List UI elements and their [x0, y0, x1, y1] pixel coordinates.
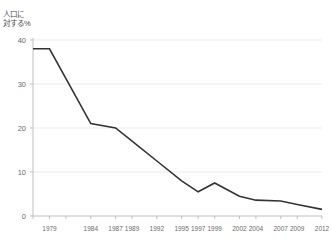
y-tick-label: 40: [10, 36, 26, 45]
y-tick-label: 0: [10, 212, 26, 221]
chart-container: 人口に 対する% 403020100 197919841987198919921…: [0, 0, 332, 243]
line-chart-svg: [0, 0, 332, 243]
y-tick-label: 20: [10, 124, 26, 133]
plot-area: [0, 0, 332, 243]
data-series-line: [33, 49, 322, 210]
x-tick-label: 1979: [39, 225, 61, 232]
y-tick-label: 10: [10, 168, 26, 177]
x-tick-label: 1989: [121, 225, 143, 232]
y-tick-label: 30: [10, 80, 26, 89]
x-tick-label: 1999: [204, 225, 226, 232]
x-tick-label: 2012: [311, 225, 332, 232]
x-tick-label: 2004: [245, 225, 267, 232]
x-tick-label: 1984: [80, 225, 102, 232]
x-tick-label: 2009: [286, 225, 308, 232]
x-tick-label: 1992: [146, 225, 168, 232]
